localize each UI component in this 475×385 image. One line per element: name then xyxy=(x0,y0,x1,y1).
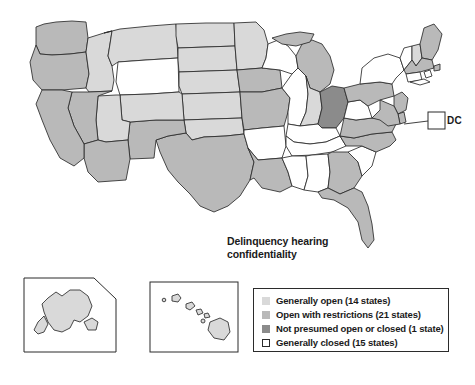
dc-swatch-box xyxy=(428,112,445,129)
hawaii-inset-group xyxy=(150,282,238,352)
state-AL xyxy=(304,154,330,192)
cape-cod xyxy=(434,64,440,71)
state-CO xyxy=(120,92,184,122)
alaska-inset-group xyxy=(24,278,116,352)
state-NY xyxy=(360,54,404,84)
state-TX xyxy=(156,133,254,212)
legend-item-open-with-restrictions: Open with restrictions (21 states) xyxy=(262,308,442,322)
state-ME xyxy=(420,24,442,60)
legend-label-not-presumed: Not presumed open or closed (1 state) xyxy=(276,322,444,336)
legend-item-generally-closed: Generally closed (15 states) xyxy=(262,336,442,350)
caption-line-1: Delinquency hearing xyxy=(227,235,357,248)
map-legend: Generally open (14 states) Open with res… xyxy=(253,288,449,352)
dc-leader-line xyxy=(404,121,428,124)
legend-swatch-generally-closed xyxy=(262,339,270,347)
dc-label: DC xyxy=(447,115,462,126)
state-MN xyxy=(234,22,268,70)
hawaii-inset-frame xyxy=(150,282,238,352)
state-SD xyxy=(178,46,237,72)
contiguous-states-group xyxy=(30,21,442,248)
legend-swatch-not-presumed xyxy=(262,325,270,333)
state-MO xyxy=(240,88,290,130)
caption-line-2: confidentiality xyxy=(227,248,357,261)
delinquency-hearing-confidentiality-figure: Delinquency hearing confidentiality DC G… xyxy=(0,0,475,385)
state-RI xyxy=(424,70,432,78)
dc-callout-group xyxy=(404,112,445,129)
legend-item-generally-open: Generally open (14 states) xyxy=(262,294,442,308)
state-ND xyxy=(176,23,235,48)
legend-label-generally-open: Generally open (14 states) xyxy=(276,294,390,308)
legend-swatch-open-with-restrictions xyxy=(262,311,270,319)
state-WY xyxy=(116,58,179,95)
figure-caption: Delinquency hearing confidentiality xyxy=(227,235,357,260)
state-KS xyxy=(182,92,242,120)
legend-label-generally-closed: Generally closed (15 states) xyxy=(276,336,397,350)
legend-swatch-generally-open xyxy=(262,297,270,305)
legend-item-not-presumed: Not presumed open or closed (1 state) xyxy=(262,322,442,336)
state-WA xyxy=(36,21,88,55)
state-AZ xyxy=(84,140,130,182)
state-IA xyxy=(237,68,282,92)
legend-label-open-with-restrictions: Open with restrictions (21 states) xyxy=(276,308,421,322)
state-NE xyxy=(179,70,240,94)
